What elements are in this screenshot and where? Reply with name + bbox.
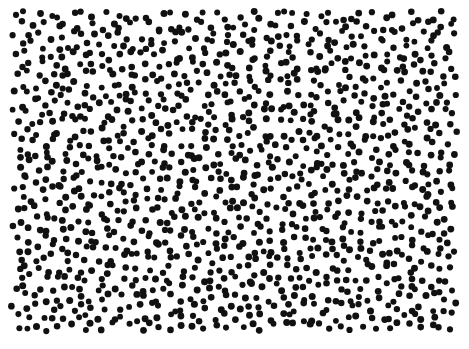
dot [431,314,438,321]
dot [341,97,347,103]
dot [251,8,258,15]
dot [263,115,270,122]
dot [118,291,124,297]
dot [431,290,438,297]
dot [308,118,315,125]
dot [335,144,341,150]
dot [324,152,330,158]
dot [361,90,367,96]
dot [185,251,192,258]
dot [221,219,227,225]
dot [379,224,385,230]
dot [431,60,437,66]
dot [237,305,244,312]
dot [133,169,139,175]
dot [283,32,289,38]
dot [441,230,447,236]
dot [404,113,410,119]
dot [424,119,431,126]
dot [131,197,137,203]
dot [112,285,119,292]
dot [320,310,327,317]
dot [444,240,451,247]
dot [140,292,147,299]
dot [193,178,199,184]
dot [37,286,43,292]
dot [116,82,122,88]
dot [329,60,335,66]
dot [75,218,81,224]
dot [430,308,436,314]
dot [99,276,105,282]
dot [357,286,363,292]
dot [177,298,183,304]
dot [427,68,433,74]
dot [440,308,446,314]
dot [301,318,307,324]
dot [399,252,405,258]
dot [297,171,303,177]
dot [185,26,191,32]
dot-field [0,0,469,349]
dot [331,104,338,111]
dot [32,301,38,307]
dot [131,238,138,245]
dot [383,185,389,191]
dot [306,278,312,284]
dot [281,294,288,301]
dot [323,274,329,280]
dot [45,215,51,221]
dot [259,147,265,153]
dot [369,219,375,225]
dot [69,284,75,290]
dot [401,312,407,318]
dot [87,50,93,56]
dot [412,125,418,131]
dot [417,316,424,323]
dot [228,254,234,260]
dot [375,201,381,207]
dot [428,106,435,113]
dot [247,78,253,84]
dot [376,158,383,165]
dot [43,298,50,305]
dot [284,262,290,268]
dot [408,212,415,219]
dot [238,142,244,148]
dot [109,70,116,77]
dot [202,135,209,142]
dot [130,139,137,146]
dot [345,209,352,216]
dot [406,141,413,148]
dot [228,177,235,184]
dot [317,30,323,36]
dot [323,237,329,243]
dot [190,167,196,173]
dot [246,65,253,72]
dot [56,46,63,53]
dot [42,196,48,202]
dot [323,19,329,25]
dot [80,128,86,134]
dot [398,234,404,240]
dot [279,227,285,233]
dot [384,168,391,175]
dot [99,164,105,170]
dot [57,303,63,309]
dot [419,277,426,284]
dot [145,135,151,141]
dot [340,224,346,230]
dot [329,162,335,168]
dot [291,70,298,77]
dot [10,223,17,230]
dot [368,173,374,179]
dot [371,28,377,34]
dot [370,95,377,102]
dot [284,73,290,79]
dot [22,290,28,296]
dot [370,75,376,81]
dot [226,71,232,77]
dot [214,88,221,95]
dot [88,128,95,135]
dot [206,250,212,256]
